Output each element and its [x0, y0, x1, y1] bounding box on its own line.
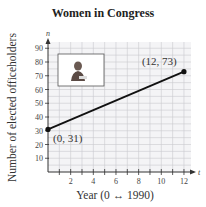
y-axis-arrow-icon: [46, 38, 51, 44]
data-point-label: (12, 73): [142, 55, 177, 68]
x-tick-label: 4: [91, 177, 95, 186]
y-tick-label: 20: [35, 141, 43, 150]
y-tick-label: 70: [35, 72, 43, 81]
x-tick-label: 6: [114, 177, 118, 186]
inset-photo: [58, 54, 104, 86]
plot-area: 24681012102030405060708090 (0, 31)(12, 7…: [0, 0, 206, 207]
x-axis-arrow-icon: [190, 170, 196, 175]
y-variable-label: n: [46, 29, 50, 38]
x-tick-label: 10: [157, 177, 165, 186]
y-tick-label: 80: [35, 58, 43, 67]
data-point: [181, 69, 186, 74]
y-tick-label: 90: [35, 44, 43, 53]
data-point: [45, 127, 50, 132]
y-tick-label: 30: [35, 127, 43, 136]
y-tick-label: 40: [35, 113, 43, 122]
x-tick-label: 8: [137, 177, 141, 186]
y-tick-label: 60: [35, 86, 43, 95]
y-tick-label: 10: [35, 154, 43, 163]
data-point-label: (0, 31): [53, 132, 83, 145]
x-tick-label: 2: [69, 177, 73, 186]
x-variable-label: t: [198, 168, 201, 177]
y-tick-label: 50: [35, 99, 43, 108]
x-tick-label: 12: [180, 177, 188, 186]
